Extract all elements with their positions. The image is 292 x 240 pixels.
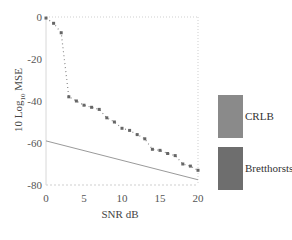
svg-text:20: 20 — [193, 192, 205, 204]
data-series — [45, 17, 200, 180]
y-axis-label: 10 Log10 MSE — [12, 68, 27, 132]
svg-text:0: 0 — [37, 11, 43, 23]
legend-label-crlb: CRLB — [245, 110, 274, 122]
legend-swatch-bretthorst — [218, 147, 243, 190]
legend-swatch-crlb — [218, 95, 243, 138]
x-axis-label: SNR dB — [102, 208, 139, 220]
svg-text:-60: -60 — [27, 137, 42, 149]
svg-text:5: 5 — [81, 192, 87, 204]
svg-text:-40: -40 — [27, 95, 42, 107]
svg-text:15: 15 — [155, 192, 167, 204]
legend-label-bretthorst: Bretthorsts' — [245, 162, 292, 174]
axis-ticks: 051015200-20-40-60-80 — [27, 11, 204, 204]
legend-item-crlb: CRLB — [218, 95, 292, 139]
svg-text:0: 0 — [43, 192, 49, 204]
svg-text:-80: -80 — [27, 179, 42, 191]
svg-text:-20: -20 — [27, 53, 42, 65]
legend-item-bretthorst: Bretthorsts' — [218, 147, 292, 191]
legend: CRLB Bretthorsts' — [218, 95, 292, 199]
plot-frame — [46, 17, 198, 185]
svg-text:10: 10 — [117, 192, 129, 204]
